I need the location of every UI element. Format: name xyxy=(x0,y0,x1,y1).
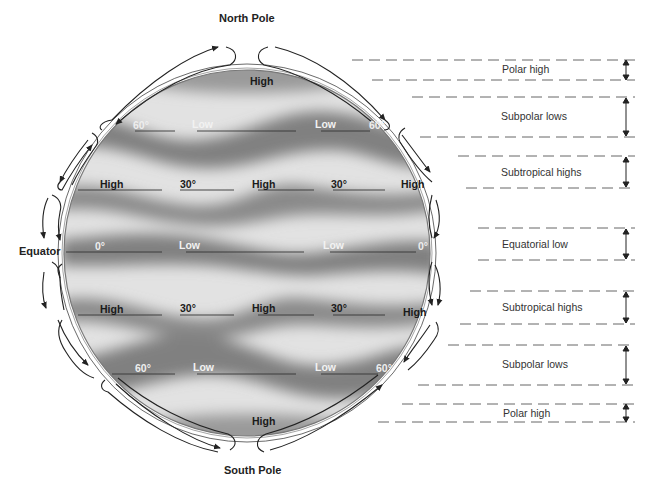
s60-degree-label-right: 60° xyxy=(376,362,392,374)
s30-high-label-1: High xyxy=(100,303,123,315)
n30-degree-label: 30° xyxy=(180,178,196,190)
n30-high-label-2: High xyxy=(252,178,275,190)
n30-degree-label-2: 30° xyxy=(331,178,347,190)
south-pole-label: South Pole xyxy=(224,464,281,476)
n30-high-label-3: High xyxy=(401,178,424,190)
north-pole-label: North Pole xyxy=(219,12,275,24)
zone-label-subpolar-lows-south: Subpolar lows xyxy=(502,358,568,370)
equatorial-low-label-1: Low xyxy=(179,239,200,251)
s30-degree-label-2: 30° xyxy=(331,302,347,314)
s30-degree-label: 30° xyxy=(180,302,196,314)
global-pressure-belts-diagram: North Pole South Pole Equator High 60° L… xyxy=(0,0,657,488)
zone-label-polar-high-north: Polar high xyxy=(502,63,549,75)
s30-high-label-3: High xyxy=(403,306,426,318)
zone-label-equatorial-low: Equatorial low xyxy=(502,238,568,250)
s60-degree-label: 60° xyxy=(135,362,151,374)
s60-low-label-2: Low xyxy=(315,361,336,373)
s30-high-label-2: High xyxy=(252,302,275,314)
north-polar-high-label: High xyxy=(250,75,273,87)
n60-degree-label-right: 60° xyxy=(369,119,385,131)
zone-label-subtropical-highs-south: Subtropical highs xyxy=(502,301,583,313)
n60-low-label-1: Low xyxy=(192,118,213,130)
n60-low-label-2: Low xyxy=(315,118,336,130)
s60-low-label-1: Low xyxy=(193,361,214,373)
equatorial-low-label-2: Low xyxy=(323,239,344,251)
zone-label-polar-high-south: Polar high xyxy=(503,407,550,419)
equator-label: Equator xyxy=(19,245,61,257)
n60-degree-label: 60° xyxy=(133,119,149,131)
zone-range-arrows xyxy=(623,60,629,422)
equator-degree-label-right: 0° xyxy=(418,240,428,252)
south-polar-high-label: High xyxy=(252,415,275,427)
equator-degree-label: 0° xyxy=(95,240,105,252)
zone-label-subpolar-lows-north: Subpolar lows xyxy=(501,110,567,122)
zone-label-subtropical-highs-north: Subtropical highs xyxy=(501,166,582,178)
n30-high-label-1: High xyxy=(100,178,123,190)
